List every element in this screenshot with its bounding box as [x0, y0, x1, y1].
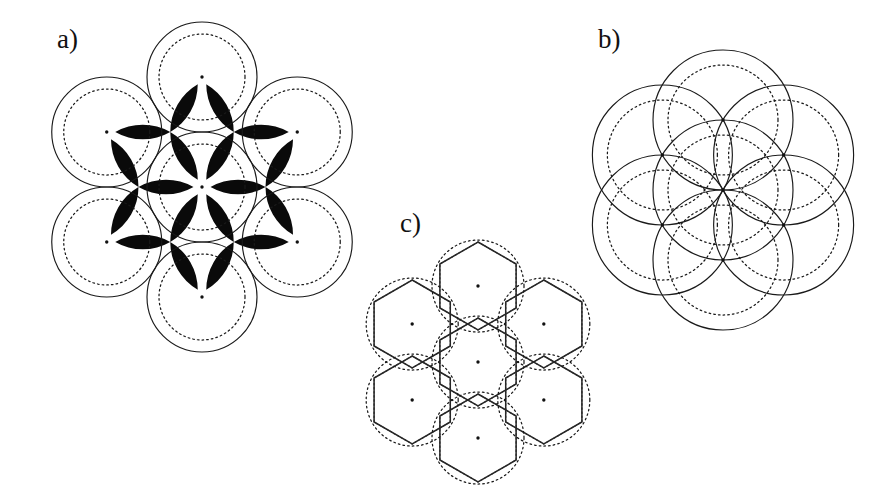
- panel-label-a: a): [57, 24, 78, 54]
- lattice-center-dot: [542, 398, 545, 401]
- lattice-center-dot: [782, 223, 785, 226]
- lattice-center-dot: [200, 295, 203, 298]
- panel-label-c: c): [400, 208, 421, 238]
- lattice-center-dot: [661, 153, 664, 156]
- lattice-center-dot: [296, 240, 299, 243]
- lattice-center-dot: [782, 153, 785, 156]
- lattice-center-dot: [410, 398, 413, 401]
- lattice-center-dot: [105, 240, 108, 243]
- figure-background: [0, 0, 875, 499]
- panel-label-b: b): [598, 24, 621, 54]
- lattice-center-dot: [476, 436, 479, 439]
- lattice-center-dot: [200, 75, 203, 78]
- lattice-center-dot: [200, 185, 203, 188]
- lattice-center-dot: [661, 223, 664, 226]
- lattice-center-dot: [721, 258, 724, 261]
- lattice-center-dot: [410, 322, 413, 325]
- lattice-center-dot: [476, 360, 479, 363]
- lattice-center-dot: [296, 130, 299, 133]
- figure-root: a)b)c): [0, 0, 875, 499]
- lattice-center-dot: [105, 130, 108, 133]
- lattice-center-dot: [542, 322, 545, 325]
- lattice-center-dot: [721, 118, 724, 121]
- packing-figure: a)b)c): [0, 0, 875, 499]
- lattice-center-dot: [721, 188, 724, 191]
- lattice-center-dot: [476, 284, 479, 287]
